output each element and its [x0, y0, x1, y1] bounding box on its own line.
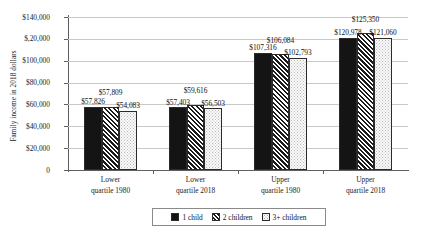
x-axis-category-line: Lower [68, 175, 153, 186]
y-tick-mark [64, 39, 68, 40]
x-axis-category-line: quartile 2018 [153, 186, 238, 197]
x-axis-category-label: Lowerquartile 1980 [68, 175, 153, 196]
bar-value-label: $125,350 [343, 15, 389, 24]
x-axis-category-line: quartile 1980 [238, 186, 323, 197]
bar-value-label: $57,809 [88, 88, 134, 97]
bar-value-label: $106,084 [258, 36, 304, 45]
bar-value-label: $102,793 [275, 48, 321, 57]
y-tick-label: $60,000 [0, 100, 50, 109]
y-tick-label: $80,000 [0, 78, 50, 87]
bar [187, 105, 205, 170]
bar [102, 107, 120, 170]
bar [272, 54, 290, 170]
legend-label: 1 child [182, 213, 202, 222]
legend-entry: 3+ children [262, 213, 307, 222]
bar-value-label: $56,503 [190, 99, 236, 108]
x-axis-category-line: quartile 1980 [68, 186, 153, 197]
y-tick-label: $100,000 [0, 56, 50, 65]
legend-entry: 2 children [212, 213, 253, 222]
y-tick-mark [64, 104, 68, 105]
x-axis-category-line: quartile 2018 [323, 186, 408, 197]
x-axis-category-label: Upperquartile 1980 [238, 175, 323, 196]
y-tick-label: $,20,000 [0, 34, 50, 43]
legend-swatch [262, 213, 270, 221]
x-axis-category-label: Upperquartile 2018 [323, 175, 408, 196]
bar [119, 111, 137, 170]
y-tick-label: $20,000 [0, 144, 50, 153]
x-axis-separator [323, 170, 324, 174]
bar [254, 53, 272, 170]
bar [374, 38, 392, 170]
y-tick-mark [64, 17, 68, 18]
x-axis-separator [238, 170, 239, 174]
chart-legend: 1 child2 children3+ children [152, 208, 326, 226]
bar [339, 38, 357, 170]
bar-value-label: $54,083 [105, 101, 151, 110]
y-tick-mark [64, 148, 68, 149]
legend-label: 3+ children [273, 213, 307, 222]
plot-area: 0$20,000$40,000$60,000$80,000$100,000$,2… [68, 17, 408, 170]
bar [204, 108, 222, 170]
legend-swatch [212, 213, 220, 221]
legend-label: 2 children [223, 213, 253, 222]
bar-chart: Family income in 2018 dollars 0$20,000$4… [0, 0, 422, 238]
bar-value-label: $121,060 [360, 28, 406, 37]
y-tick-mark [64, 61, 68, 62]
y-tick-label: $140,000 [0, 13, 50, 22]
x-axis-separator [153, 170, 154, 174]
x-axis-category-line: Upper [323, 175, 408, 186]
x-axis-category-line: Lower [153, 175, 238, 186]
bar [357, 33, 375, 170]
legend-entry: 1 child [171, 213, 202, 222]
bar [289, 58, 307, 170]
bar [169, 107, 187, 170]
y-tick-mark [64, 83, 68, 84]
x-axis-category-label: Lowerquartile 2018 [153, 175, 238, 196]
bar-value-label: $59,616 [173, 86, 219, 95]
bar [84, 107, 102, 170]
legend-swatch [171, 213, 179, 221]
y-tick-mark [64, 170, 68, 171]
y-tick-label: $40,000 [0, 122, 50, 131]
y-tick-mark [64, 126, 68, 127]
y-tick-label: 0 [0, 166, 50, 175]
x-axis-category-line: Upper [238, 175, 323, 186]
